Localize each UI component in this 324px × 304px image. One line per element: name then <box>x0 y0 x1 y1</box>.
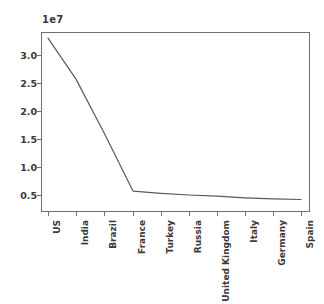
x-tick-mark <box>48 212 49 216</box>
x-tick-mark <box>273 212 274 216</box>
x-tick-mark <box>245 212 246 216</box>
y-tick-label-0: 0.5 <box>20 190 37 201</box>
x-tick-mark <box>76 212 77 216</box>
x-tick-label-turkey: Turkey <box>165 220 175 254</box>
x-tick-label-italy: Italy <box>249 220 259 243</box>
x-tick-label-germany: Germany <box>277 220 287 266</box>
y-tick-label-1: 1.0 <box>20 162 37 173</box>
y-tick-label-4: 2.5 <box>20 78 37 89</box>
x-tick-mark <box>133 212 134 216</box>
x-tick-mark <box>104 212 105 216</box>
x-tick-mark <box>189 212 190 216</box>
x-tick-label-spain: Spain <box>305 220 315 249</box>
x-tick-mark <box>301 212 302 216</box>
x-tick-mark <box>217 212 218 216</box>
y-tick-label-5: 3.0 <box>20 50 37 61</box>
plot-area-frame <box>41 32 310 212</box>
y-axis-offset-text: 1e7 <box>42 14 63 25</box>
x-tick-label-india: India <box>80 220 90 245</box>
x-tick-label-france: France <box>137 220 147 254</box>
y-tick-label-2: 1.5 <box>20 134 37 145</box>
x-tick-label-united-kingdom: United Kingdom <box>221 220 231 302</box>
x-tick-label-us: US <box>52 220 62 234</box>
x-tick-mark <box>161 212 162 216</box>
x-tick-label-brazil: Brazil <box>108 220 118 249</box>
chart-figure: 1e7 0.5 1.0 1.5 2.0 2.5 3.0 US India Bra… <box>0 0 324 304</box>
y-tick-label-3: 2.0 <box>20 106 37 117</box>
x-tick-label-russia: Russia <box>193 220 203 253</box>
